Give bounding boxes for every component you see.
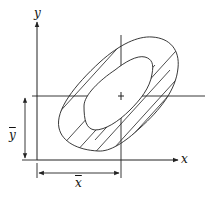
y-axis-label: y [34, 7, 41, 19]
y-mean-label: y [9, 129, 16, 141]
x-axis-label: x [181, 153, 188, 165]
contour-diagram [0, 0, 215, 198]
x-mean-label: x [75, 177, 82, 189]
